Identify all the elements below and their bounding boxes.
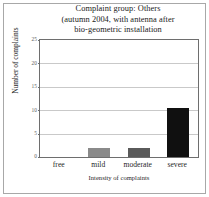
y-tick-label-10: 10 — [23, 108, 37, 113]
x-tick-label-moderate: moderate — [118, 160, 158, 169]
y-tick-label-15: 15 — [23, 84, 37, 89]
y-axis-ticks: 0510152025 — [20, 39, 37, 158]
y-tick-label-25: 25 — [23, 37, 37, 42]
chart-title-line-1: Complaint group: Others — [30, 4, 206, 15]
gridline-20 — [40, 63, 198, 64]
x-tick-label-severe: severe — [158, 160, 198, 169]
bar-severe[interactable] — [167, 108, 189, 157]
chart-title-line-3: bio-geometric installation — [30, 25, 206, 36]
bar-moderate[interactable] — [128, 148, 150, 157]
x-tick-label-free: free — [39, 160, 79, 169]
chart-title: Complaint group: Others (autumn 2004, wi… — [30, 4, 206, 36]
y-tick-label-0: 0 — [23, 154, 37, 159]
chart-figure: Complaint group: Others (autumn 2004, wi… — [0, 0, 209, 197]
y-axis-title: Number of complaints — [11, 1, 20, 121]
chart-title-line-2: (autumn 2004, with antenna after — [30, 15, 206, 26]
x-tick-label-mild: mild — [79, 160, 119, 169]
bar-mild[interactable] — [88, 148, 110, 157]
x-axis-tick-labels: freemildmoderatesevere — [39, 160, 199, 173]
y-tick-label-20: 20 — [23, 61, 37, 66]
x-axis-title: Intensity of complaints — [39, 174, 199, 181]
gridline-15 — [40, 87, 198, 88]
plot-area — [39, 39, 199, 158]
y-tick-label-5: 5 — [23, 131, 37, 136]
